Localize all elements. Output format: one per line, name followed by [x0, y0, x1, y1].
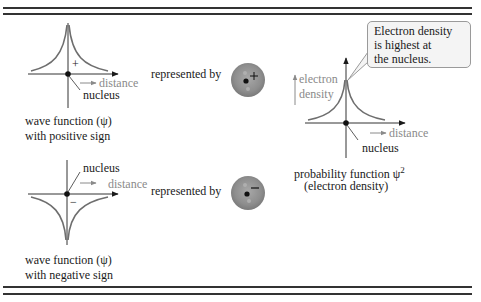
caption-positive-line1: wave function (ψ)	[25, 114, 112, 128]
negative-sign: −	[70, 195, 77, 209]
distance-label-3: distance	[389, 126, 428, 140]
represented-by-1: represented by	[151, 67, 221, 81]
probability-caption-sup: 2	[400, 165, 405, 175]
callout-line1: Electron density	[374, 24, 464, 38]
caption-negative-line1: wave function (ψ)	[25, 253, 112, 267]
nucleus-label-2: nucleus	[83, 161, 120, 175]
nucleus-label-3: nucleus	[362, 141, 399, 155]
represented-by-2: represented by	[151, 184, 221, 198]
distance-label-2: distance	[108, 177, 147, 191]
caption-positive-line2: with positive sign	[25, 129, 110, 143]
electron-density-label-line2: density	[299, 87, 334, 101]
callout-line2: is highest at	[374, 38, 464, 52]
caption-negative-line2: with negative sign	[25, 268, 113, 282]
callout-box: Electron density is highest at the nucle…	[367, 21, 471, 68]
orbital-sphere-positive	[231, 63, 265, 97]
callout-line3: the nucleus.	[374, 52, 464, 66]
probability-caption-line2: (electron density)	[304, 179, 388, 193]
electron-density-label-line1: electron	[299, 72, 338, 86]
positive-sign: +	[72, 57, 79, 71]
nucleus-label-1: nucleus	[83, 88, 120, 102]
orbital-sphere-negative	[231, 176, 265, 210]
